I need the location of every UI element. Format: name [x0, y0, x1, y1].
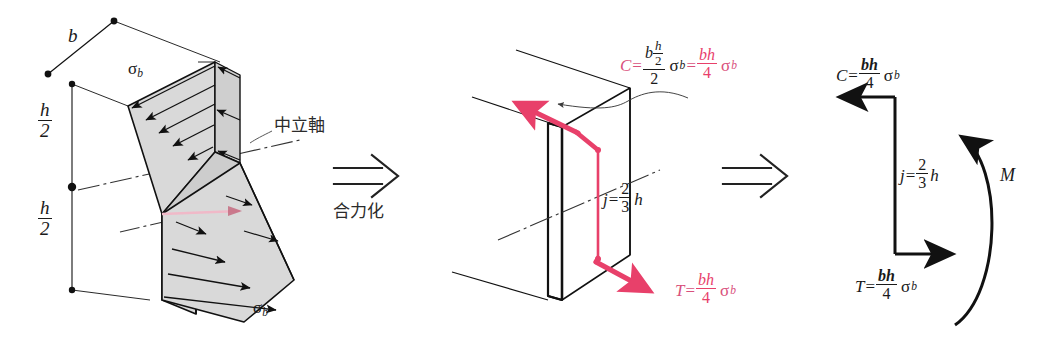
right-j-equation: j = 2 3 h [900, 158, 939, 194]
arrow-resultant-2 [723, 155, 787, 197]
middle-t-equation: T = bh 4 σb [675, 273, 736, 309]
dimension-label-h-lower: h 2 [38, 200, 52, 242]
dimension-label-b: b [68, 26, 78, 45]
arrow-resultant-1 [334, 155, 398, 197]
middle-c-equation: C = bh2 2 σb = bh 4 σb [620, 42, 737, 89]
moment-arc [955, 137, 992, 325]
neutral-axis-label: 中立軸 [274, 117, 325, 134]
middle-j-equation: j = 2 3 h [603, 182, 643, 218]
dimension-b [45, 18, 118, 78]
sigma-b-bottom-label: σb [253, 299, 268, 319]
right-moment-label: M [1000, 166, 1015, 184]
left-panel-group [45, 18, 300, 322]
figure-canvas: b h 2 h 2 σb σb 中立軸 合力化 C = bh2 [0, 0, 1047, 340]
right-c-equation: C = bh 4 σb [836, 58, 900, 94]
dimension-label-h-upper: h 2 [38, 102, 52, 144]
right-t-equation: T = bh 4 σb [855, 269, 917, 305]
resultant-caption: 合力化 [333, 203, 384, 220]
dimension-h [68, 81, 76, 293]
sigma-b-top-label: σb [128, 60, 143, 80]
